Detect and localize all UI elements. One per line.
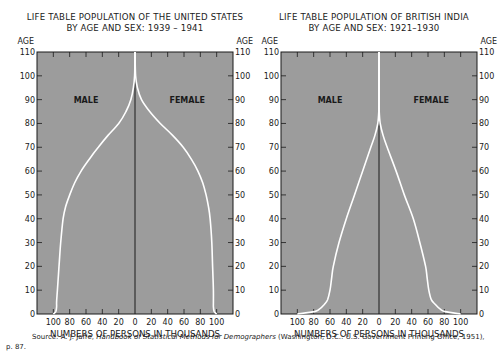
x-tick-label: 60 xyxy=(81,318,91,327)
x-tick-label: 100 xyxy=(46,318,61,327)
x-tick-label: 40 xyxy=(341,318,351,327)
source-suffix: (Washington, D.C.: U.S. Government Print… xyxy=(276,333,485,341)
y-tick-label-right: 90 xyxy=(479,96,489,105)
us-pyramid-chart: 1008060402002040608010000101020203030404… xyxy=(17,37,253,339)
y-tick-label-left: 40 xyxy=(25,215,35,224)
y-tick-label-left: 80 xyxy=(25,119,35,128)
y-tick-label-left: 110 xyxy=(264,48,279,57)
x-tick-label: 40 xyxy=(163,318,173,327)
y-tick-label-right: 110 xyxy=(479,48,494,57)
y-tick-label-left: 50 xyxy=(269,191,279,200)
x-tick-label: 40 xyxy=(407,318,417,327)
y-tick-label-left: 0 xyxy=(274,310,279,319)
y-tick-label-right: 70 xyxy=(479,143,489,152)
y-tick-label-left: 40 xyxy=(269,215,279,224)
y-tick-label-right: 30 xyxy=(235,239,245,248)
y-tick-label-left: 90 xyxy=(25,96,35,105)
y-tick-label-left: 110 xyxy=(20,48,35,57)
source-page: p. 87. xyxy=(6,342,496,352)
y-tick-label-right: 70 xyxy=(235,143,245,152)
y-tick-label-right: 80 xyxy=(235,119,245,128)
y-tick-label-right: 50 xyxy=(235,191,245,200)
female-label: FEMALE xyxy=(169,96,205,105)
x-tick-label: 60 xyxy=(179,318,189,327)
x-tick-label: 60 xyxy=(325,318,335,327)
age-axis-label-left: AGE xyxy=(261,37,278,46)
y-tick-label-left: 20 xyxy=(269,262,279,271)
pyramid-charts: 1008060402002040608010000101020203030404… xyxy=(0,0,498,359)
x-tick-label: 0 xyxy=(376,318,381,327)
source-citation: Source: A. J. Jaffe, Handbook of Statist… xyxy=(6,332,496,352)
y-tick-label-right: 100 xyxy=(235,72,250,81)
y-tick-label-right: 10 xyxy=(235,286,245,295)
y-tick-label-left: 70 xyxy=(269,143,279,152)
y-tick-label-right: 40 xyxy=(235,215,245,224)
y-tick-label-left: 100 xyxy=(20,72,35,81)
y-tick-label-left: 50 xyxy=(25,191,35,200)
y-tick-label-left: 20 xyxy=(25,262,35,271)
y-tick-label-right: 60 xyxy=(479,167,489,176)
y-tick-label-right: 110 xyxy=(235,48,250,57)
female-label: FEMALE xyxy=(413,96,449,105)
source-prefix: Source: A. J. Jaffe, xyxy=(32,333,96,341)
x-tick-label: 100 xyxy=(209,318,224,327)
x-tick-label: 20 xyxy=(390,318,400,327)
age-axis-label-right: AGE xyxy=(480,37,497,46)
y-tick-label-left: 70 xyxy=(25,143,35,152)
x-tick-label: 40 xyxy=(97,318,107,327)
y-tick-label-right: 100 xyxy=(479,72,494,81)
x-tick-label: 80 xyxy=(195,318,205,327)
y-tick-label-left: 30 xyxy=(25,239,35,248)
x-tick-label: 80 xyxy=(309,318,319,327)
x-tick-label: 20 xyxy=(146,318,156,327)
x-tick-label: 20 xyxy=(358,318,368,327)
y-tick-label-right: 0 xyxy=(479,310,484,319)
age-axis-label-left: AGE xyxy=(17,37,34,46)
x-tick-label: 80 xyxy=(65,318,75,327)
india-pyramid-chart: 1008060402002040608010000101020203030404… xyxy=(261,37,497,339)
y-tick-label-right: 60 xyxy=(235,167,245,176)
y-tick-label-left: 30 xyxy=(269,239,279,248)
y-tick-label-left: 90 xyxy=(269,96,279,105)
source-book-title: Handbook of Statistical Methods for Demo… xyxy=(96,333,276,341)
y-tick-label-right: 80 xyxy=(479,119,489,128)
x-tick-label: 0 xyxy=(132,318,137,327)
x-tick-label: 20 xyxy=(114,318,124,327)
y-tick-label-right: 40 xyxy=(479,215,489,224)
x-tick-label: 60 xyxy=(423,318,433,327)
y-tick-label-right: 0 xyxy=(235,310,240,319)
y-tick-label-left: 100 xyxy=(264,72,279,81)
y-tick-label-left: 80 xyxy=(269,119,279,128)
age-axis-label-right: AGE xyxy=(236,37,253,46)
y-tick-label-right: 50 xyxy=(479,191,489,200)
x-tick-label: 100 xyxy=(453,318,468,327)
male-label: MALE xyxy=(74,96,99,105)
male-label: MALE xyxy=(318,96,343,105)
x-tick-label: 80 xyxy=(439,318,449,327)
y-tick-label-left: 60 xyxy=(269,167,279,176)
y-tick-label-left: 10 xyxy=(25,286,35,295)
y-tick-label-right: 20 xyxy=(479,262,489,271)
y-tick-label-left: 60 xyxy=(25,167,35,176)
y-tick-label-right: 20 xyxy=(235,262,245,271)
y-tick-label-right: 90 xyxy=(235,96,245,105)
y-tick-label-right: 10 xyxy=(479,286,489,295)
x-tick-label: 100 xyxy=(290,318,305,327)
y-tick-label-left: 0 xyxy=(30,310,35,319)
y-tick-label-left: 10 xyxy=(269,286,279,295)
y-tick-label-right: 30 xyxy=(479,239,489,248)
